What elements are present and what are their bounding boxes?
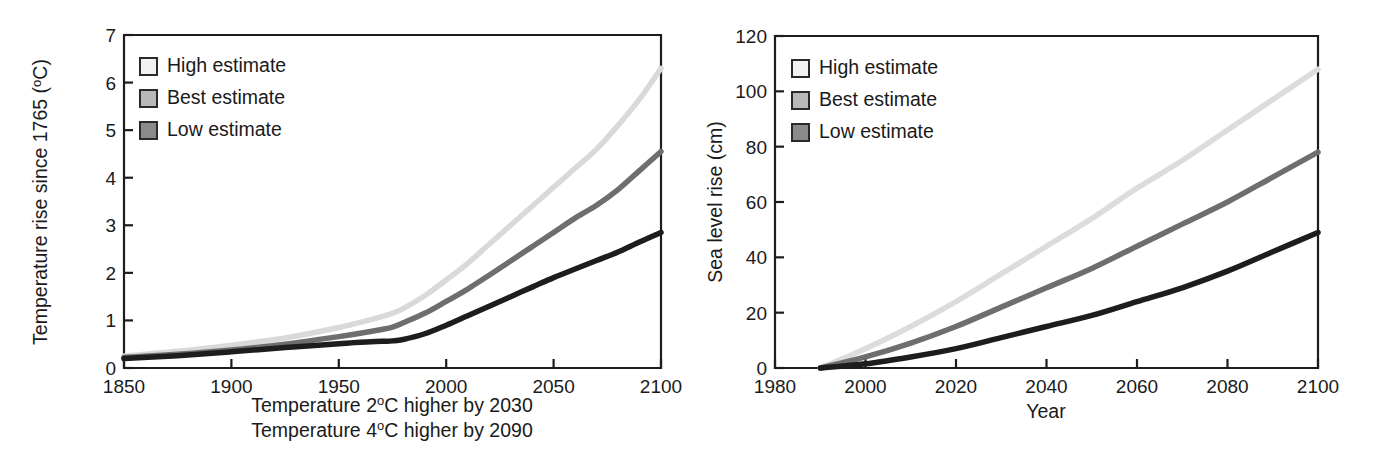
sea-level-rise-panel: 020406080100120 198020002020204020602080… [700,0,1396,455]
x-tick-label: 2040 [1025,376,1067,397]
legend-left: High estimateBest estimateLow estimate [140,54,286,140]
y-tick-label: 40 [746,247,767,268]
y-tick-label: 7 [105,25,116,46]
x-tick-label: 1980 [754,376,796,397]
y-tick-label: 120 [735,26,767,47]
x-tick-label: 1900 [210,376,252,397]
legend-swatch-icon [140,90,157,107]
y-tick-label: 80 [746,137,767,158]
legend-label: Best estimate [167,86,285,108]
y-tick-label: 60 [746,192,767,213]
legend-label: High estimate [819,56,938,78]
x-tick-label: 2100 [1297,376,1339,397]
series-group-left [124,68,661,358]
legend-label: Low estimate [167,118,282,140]
legend-swatch-icon [140,122,157,139]
legend-label: Low estimate [819,120,934,142]
y-axis-title-right: Sea level rise (cm) [704,121,726,282]
series-group-right [820,69,1318,368]
y-tick-label: 3 [105,215,116,236]
legend-swatch-icon [792,60,809,77]
legend-label: High estimate [167,54,286,76]
x-tick-label: 2100 [640,376,682,397]
y-tick-label: 1 [105,310,116,331]
x-tick-label: 2020 [935,376,977,397]
plot-frame-right [775,36,1318,368]
y-tick-label: 2 [105,263,116,284]
y-tick-label: 6 [105,73,116,94]
x-axis-ticks-left: 185019001950200020502100 [103,359,682,397]
series-line-best-estimate [124,152,661,358]
sea-level-rise-chart: 020406080100120 198020002020204020602080… [700,0,1396,455]
caption-line-1: Temperature 2oC higher by 2030 [251,393,533,416]
plot-frame-left [124,35,661,368]
legend-swatch-icon [792,92,809,109]
x-tick-label: 2080 [1206,376,1248,397]
y-axis-ticks-right: 020406080100120 [735,26,784,379]
y-axis-ticks-left: 01234567 [105,25,133,379]
legend-label: Best estimate [819,88,937,110]
legend-swatch-icon [792,124,809,141]
x-tick-label: 2050 [532,376,574,397]
y-tick-label: 100 [735,81,767,102]
x-tick-label: 2000 [844,376,886,397]
temperature-rise-panel: 01234567 185019001950200020502100 Temper… [0,0,700,455]
series-line-low-estimate [124,232,661,358]
y-tick-label: 20 [746,303,767,324]
y-tick-label: 4 [105,168,116,189]
x-tick-label: 1850 [103,376,145,397]
legend-swatch-icon [140,58,157,75]
climate-projection-figure: 01234567 185019001950200020502100 Temper… [0,0,1396,455]
y-axis-title-left: Temperature rise since 1765 (oC) [29,59,51,345]
x-axis-title-right: Year [1026,400,1066,422]
legend-right: High estimateBest estimateLow estimate [792,56,938,142]
y-tick-label: 5 [105,120,116,141]
x-tick-label: 2060 [1116,376,1158,397]
caption-line-2: Temperature 4oC higher by 2090 [251,418,533,441]
temperature-rise-chart: 01234567 185019001950200020502100 Temper… [0,0,700,455]
